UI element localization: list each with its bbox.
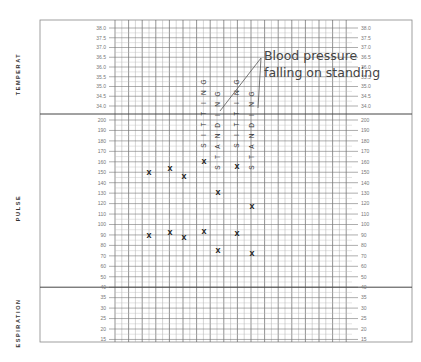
- tick-label-temperature: 38.0: [96, 25, 106, 31]
- tick-label-temperature: 34.5: [96, 93, 106, 99]
- annotation-line-2: falling on standing: [264, 65, 380, 80]
- tick-label-pulse-right: 130: [361, 190, 370, 196]
- leader-line: [258, 58, 261, 108]
- data-marker: x: [234, 228, 239, 238]
- tick-label-respiration-right: 25: [361, 315, 367, 321]
- position-label-letter: T: [200, 122, 207, 126]
- tick-label-respiration: 30: [100, 305, 106, 311]
- tick-label-temperature: 36.5: [96, 54, 106, 60]
- position-label-letter: S: [200, 143, 207, 148]
- tick-label-temperature-right: 38.0: [361, 25, 371, 31]
- tick-label-pulse-right: 150: [361, 169, 370, 175]
- position-label-letter: N: [248, 102, 255, 107]
- tick-label-pulse: 60: [100, 263, 106, 269]
- tick-label-temperature-right: 34.0: [361, 103, 371, 109]
- tick-label-temperature-right: 36.5: [361, 54, 371, 60]
- position-label-letter: I: [214, 114, 221, 116]
- position-labels: GNITTISGNIDNATSGNITTISGNIDNATS: [200, 79, 255, 169]
- data-marker: x: [201, 226, 206, 236]
- position-label-letter: D: [248, 123, 255, 128]
- data-marker: x: [146, 167, 151, 177]
- tick-label-pulse-right: 140: [361, 180, 370, 186]
- tick-label-pulse-right: 60: [361, 263, 367, 269]
- position-label-letter: T: [233, 112, 240, 116]
- tick-label-pulse: 50: [100, 274, 106, 280]
- data-marker: x: [167, 227, 172, 237]
- tick-label-pulse: 190: [98, 127, 107, 133]
- tick-label-temperature: 35.0: [96, 83, 106, 89]
- data-marker: x: [215, 187, 220, 197]
- tick-label-respiration: 15: [100, 336, 106, 342]
- tick-label-temperature: 36.0: [96, 64, 106, 70]
- position-label-letter: G: [233, 79, 240, 84]
- tick-label-pulse: 200: [98, 117, 107, 123]
- tick-label-pulse: 70: [100, 253, 106, 259]
- tick-label-pulse: 100: [98, 221, 107, 227]
- tick-label-pulse-right: 170: [361, 148, 370, 154]
- position-label-letter: N: [200, 90, 207, 95]
- tick-label-pulse-right: 180: [361, 138, 370, 144]
- section-labels: TEMPERAT PULSE ESPIRATION: [15, 53, 21, 348]
- observation-chart: 38.038.037.537.537.037.036.536.536.036.0…: [0, 0, 421, 362]
- position-label-letter: T: [248, 155, 255, 159]
- data-marker: x: [181, 232, 186, 242]
- position-label-letter: T: [214, 155, 221, 159]
- data-marker: x: [234, 161, 239, 171]
- tick-label-respiration-right: 35: [361, 294, 367, 300]
- tick-label-pulse-right: 90: [361, 232, 367, 238]
- tick-label-pulse-right: 160: [361, 159, 370, 165]
- tick-label-pulse-right: 50: [361, 274, 367, 280]
- position-label-letter: G: [214, 91, 221, 96]
- tick-label-pulse: 130: [98, 190, 107, 196]
- position-label-letter: A: [214, 144, 221, 149]
- position-label-letter: T: [200, 112, 207, 116]
- tick-label-pulse-right: 200: [361, 117, 370, 123]
- position-label-letter: S: [233, 143, 240, 148]
- tick-label-temperature: 37.0: [96, 44, 106, 50]
- data-marker: x: [215, 245, 220, 255]
- tick-label-pulse-right: 190: [361, 127, 370, 133]
- tick-label-respiration: 35: [100, 294, 106, 300]
- position-label-letter: I: [248, 114, 255, 116]
- annotation-line-1: Blood pressure: [264, 48, 358, 63]
- data-marker: x: [146, 230, 151, 240]
- tick-label-respiration: 25: [100, 315, 106, 321]
- position-label-letter: S: [214, 165, 221, 170]
- tick-label-pulse-right: 70: [361, 253, 367, 259]
- tick-label-pulse: 90: [100, 232, 106, 238]
- tick-label-pulse: 80: [100, 242, 106, 248]
- data-marker: x: [181, 171, 186, 181]
- tick-label-pulse: 140: [98, 180, 107, 186]
- tick-label-pulse-right: 110: [361, 211, 369, 217]
- position-label-letter: I: [233, 102, 240, 104]
- data-marker: x: [167, 163, 172, 173]
- tick-label-temperature: 35.5: [96, 74, 106, 80]
- position-label-letter: N: [214, 133, 221, 138]
- tick-label-pulse-right: 40: [361, 284, 367, 290]
- tick-label-respiration-right: 30: [361, 305, 367, 311]
- position-label-letter: S: [248, 165, 255, 170]
- tick-label-temperature-right: 34.5: [361, 93, 371, 99]
- tick-label-respiration-right: 20: [361, 326, 367, 332]
- data-marker: x: [249, 201, 254, 211]
- section-label-pulse: PULSE: [15, 195, 21, 221]
- section-label-respiration: ESPIRATION: [15, 298, 21, 347]
- section-label-temperature: TEMPERAT: [15, 53, 21, 96]
- position-label-letter: I: [200, 134, 207, 136]
- position-label-letter: N: [214, 102, 221, 107]
- tick-label-respiration-right: 15: [361, 336, 367, 342]
- tick-label-pulse: 160: [98, 159, 107, 165]
- tick-label-pulse: 110: [98, 211, 106, 217]
- tick-label-respiration: 20: [100, 326, 106, 332]
- data-marker: x: [201, 156, 206, 166]
- tick-label-pulse: 40: [100, 284, 106, 290]
- tick-label-pulse: 170: [98, 148, 107, 154]
- position-label-letter: T: [233, 122, 240, 126]
- data-marker: x: [249, 248, 254, 258]
- tick-label-pulse: 150: [98, 169, 107, 175]
- tick-label-temperature-right: 37.0: [361, 44, 371, 50]
- position-label-letter: G: [248, 91, 255, 96]
- position-label-letter: A: [248, 144, 255, 149]
- position-label-letter: I: [233, 134, 240, 136]
- tick-label-pulse-right: 120: [361, 200, 370, 206]
